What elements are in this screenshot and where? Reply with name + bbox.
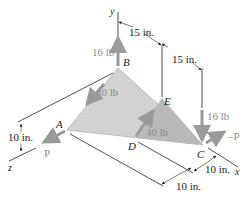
axis-label-z: z bbox=[7, 162, 12, 173]
point-label-a: A bbox=[55, 118, 63, 130]
axis-label-x: x bbox=[234, 166, 240, 177]
dimension-label-bottom-1: 10 in. bbox=[205, 163, 230, 175]
force-arrow-a-p bbox=[44, 131, 65, 142]
force-label-c-16lb: 16 lb bbox=[207, 110, 230, 122]
point-label-c: C bbox=[197, 148, 205, 160]
dimension-label-bottom-2: 10 in. bbox=[176, 180, 201, 192]
axis-label-y: y bbox=[109, 6, 115, 17]
force-label-d-40lb: 40 lb bbox=[146, 126, 169, 138]
dimension-label-left: 10 in. bbox=[8, 131, 33, 143]
force-label-ba-40lb: 40 lb bbox=[96, 86, 119, 98]
z-axis bbox=[9, 148, 36, 161]
dimension-label-top-2: 15 in. bbox=[172, 53, 197, 65]
truss-plate-diagram: y z x B A C D E 16 lb 40 lb 40 lb 16 lb … bbox=[0, 0, 247, 198]
force-label-p: P bbox=[44, 147, 50, 159]
point-label-e: E bbox=[163, 95, 171, 107]
force-label-minus-p: –P bbox=[227, 130, 240, 142]
force-label-b-16lb: 16 lb bbox=[92, 46, 115, 58]
force-arrow-c-minus-p bbox=[206, 132, 224, 143]
guide-line-a bbox=[70, 134, 163, 186]
guide-line-d bbox=[138, 142, 193, 173]
point-label-b: B bbox=[123, 56, 130, 68]
dimension-label-top-1: 15 in. bbox=[129, 26, 154, 38]
point-label-d: D bbox=[127, 140, 136, 152]
